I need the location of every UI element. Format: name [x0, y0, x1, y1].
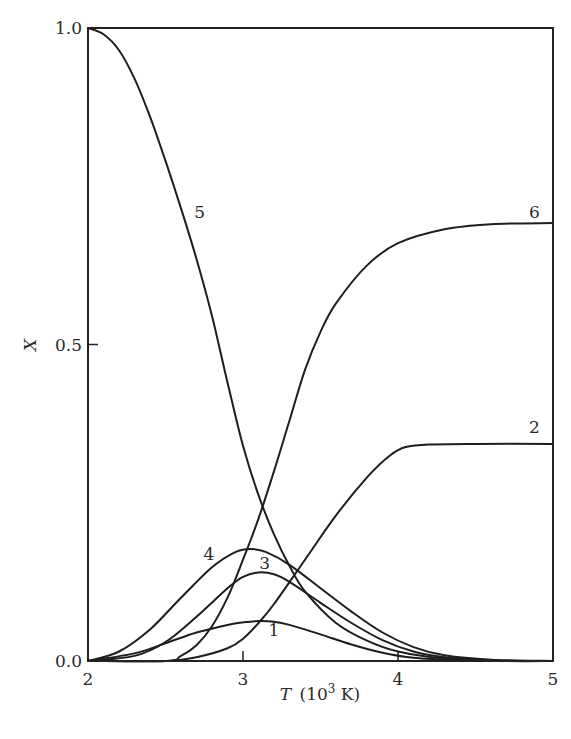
y-tick-label: 0.5 — [55, 335, 82, 355]
curve-labels: 123456 — [194, 202, 540, 640]
curve-5 — [88, 28, 553, 661]
y-tick-label: 0.0 — [55, 651, 82, 671]
plot-frame — [88, 28, 553, 661]
curve-label-4: 4 — [203, 544, 214, 564]
curve-1 — [88, 621, 553, 661]
curve-label-5: 5 — [194, 202, 205, 222]
curve-2 — [88, 444, 553, 661]
curve-4 — [88, 549, 553, 661]
x-tick-label: 2 — [83, 669, 94, 689]
y-axis-ticks: 0.00.51.0 — [55, 18, 98, 671]
chart: 2345 0.00.51.0 123456 T (103 K) X — [0, 0, 571, 739]
curve-label-2: 2 — [529, 417, 540, 437]
x-tick-label: 3 — [238, 669, 249, 689]
curve-3 — [88, 572, 553, 661]
curve-label-3: 3 — [259, 553, 270, 573]
curve-label-1: 1 — [269, 620, 280, 640]
y-axis-title: X — [20, 338, 40, 353]
curve-6 — [88, 223, 553, 661]
x-axis-title: T (103 K) — [280, 682, 360, 704]
x-tick-label: 4 — [393, 669, 404, 689]
x-tick-label: 5 — [548, 669, 559, 689]
curve-label-6: 6 — [529, 202, 540, 222]
curves-group — [88, 28, 553, 661]
y-tick-label: 1.0 — [55, 18, 82, 38]
